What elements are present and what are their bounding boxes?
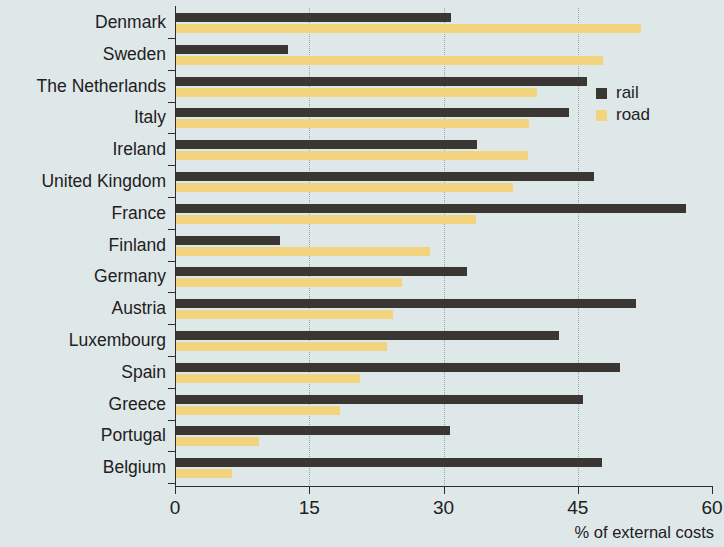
- category-label: Portugal: [0, 425, 166, 446]
- category-tick: [168, 197, 175, 198]
- bar-road: [175, 374, 360, 383]
- category-tick: [168, 483, 175, 484]
- bar-group: [175, 390, 712, 422]
- bar-rail: [175, 331, 559, 340]
- bar-road: [175, 310, 393, 319]
- category-tick: [168, 102, 175, 103]
- bar-group: [175, 40, 712, 72]
- category-tick: [168, 261, 175, 262]
- bar-group: [175, 231, 712, 263]
- bar-group: [175, 199, 712, 231]
- bar-road: [175, 88, 537, 97]
- legend-label-rail: rail: [616, 83, 639, 103]
- legend-swatch-road: [596, 110, 607, 121]
- bar-rail: [175, 172, 594, 181]
- bar-rail: [175, 45, 288, 54]
- x-tick-mark: [175, 486, 176, 494]
- x-tick-label: 45: [567, 497, 588, 519]
- bar-rail: [175, 458, 602, 467]
- bar-road: [175, 215, 476, 224]
- category-label: Greece: [0, 394, 166, 415]
- bar-road: [175, 437, 259, 446]
- bar-road: [175, 56, 603, 65]
- bar-group: [175, 135, 712, 167]
- category-label: Denmark: [0, 12, 166, 33]
- bar-group: [175, 453, 712, 485]
- bar-group: [175, 167, 712, 199]
- bar-road: [175, 119, 529, 128]
- bar-rail: [175, 395, 583, 404]
- bar-group: [175, 8, 712, 40]
- bar-road: [175, 24, 641, 33]
- bar-road: [175, 151, 528, 160]
- bar-road: [175, 406, 340, 415]
- x-axis-title: % of external costs: [575, 523, 714, 542]
- category-tick: [168, 38, 175, 39]
- bar-rail: [175, 236, 280, 245]
- category-label: Italy: [0, 107, 166, 128]
- legend-label-road: road: [616, 105, 650, 125]
- bar-chart: DenmarkSwedenThe NetherlandsItalyIreland…: [0, 0, 724, 547]
- x-tick-mark: [578, 486, 579, 494]
- legend-item-road: road: [596, 104, 650, 126]
- plot-area: [175, 8, 712, 485]
- bar-group: [175, 358, 712, 390]
- bar-group: [175, 326, 712, 358]
- category-tick: [168, 451, 175, 452]
- category-label: The Netherlands: [0, 76, 166, 97]
- x-tick-label: 0: [170, 497, 181, 519]
- bar-rail: [175, 299, 636, 308]
- legend-swatch-rail: [596, 88, 607, 99]
- bar-group: [175, 262, 712, 294]
- x-tick-mark: [444, 486, 445, 494]
- bar-rail: [175, 13, 451, 22]
- y-axis-line: [175, 6, 176, 487]
- x-tick-label: 60: [701, 497, 722, 519]
- category-label: France: [0, 203, 166, 224]
- category-label: Luxembourg: [0, 330, 166, 351]
- category-tick: [168, 229, 175, 230]
- bar-road: [175, 278, 402, 287]
- bar-rail: [175, 204, 686, 213]
- bar-road: [175, 469, 232, 478]
- bar-rail: [175, 267, 467, 276]
- category-tick: [168, 70, 175, 71]
- category-tick: [168, 324, 175, 325]
- category-label: Spain: [0, 362, 166, 383]
- category-label: United Kingdom: [0, 171, 166, 192]
- category-tick: [168, 165, 175, 166]
- bar-rail: [175, 140, 477, 149]
- category-tick: [168, 133, 175, 134]
- bar-road: [175, 183, 513, 192]
- bar-rail: [175, 108, 569, 117]
- category-label: Germany: [0, 266, 166, 287]
- category-tick: [168, 388, 175, 389]
- x-tick-mark: [712, 486, 713, 494]
- bar-group: [175, 421, 712, 453]
- category-label: Sweden: [0, 44, 166, 65]
- category-tick: [168, 356, 175, 357]
- bar-group: [175, 294, 712, 326]
- category-label: Austria: [0, 298, 166, 319]
- x-tick-mark: [309, 486, 310, 494]
- bar-rail: [175, 426, 450, 435]
- category-tick: [168, 292, 175, 293]
- category-label: Ireland: [0, 139, 166, 160]
- bar-rail: [175, 363, 620, 372]
- bar-rail: [175, 77, 587, 86]
- category-label: Finland: [0, 235, 166, 256]
- x-tick-label: 30: [433, 497, 454, 519]
- category-label: Belgium: [0, 457, 166, 478]
- x-tick-label: 15: [299, 497, 320, 519]
- bar-road: [175, 342, 387, 351]
- category-tick: [168, 420, 175, 421]
- bar-road: [175, 247, 430, 256]
- legend: rail road: [596, 82, 650, 126]
- legend-item-rail: rail: [596, 82, 650, 104]
